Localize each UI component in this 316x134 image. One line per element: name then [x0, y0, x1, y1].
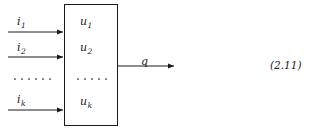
- equation-number: (2.11): [270, 60, 302, 71]
- input-label-i2: i2: [17, 38, 25, 54]
- input-label-i1: i1: [17, 12, 25, 28]
- block-label-uk: uk: [80, 92, 92, 108]
- diagram-canvas: [0, 0, 316, 134]
- block-label-u2: u2: [80, 38, 92, 54]
- block-ellipsis-dots: [77, 78, 107, 80]
- block-label-u1: u1: [80, 12, 92, 28]
- output-label-q: q: [141, 52, 148, 68]
- figure-container: i1 i2 ik u1 u2 uk q (2.11): [0, 0, 316, 134]
- input-label-ik: ik: [17, 90, 25, 106]
- input-ellipsis-dots: [14, 78, 51, 80]
